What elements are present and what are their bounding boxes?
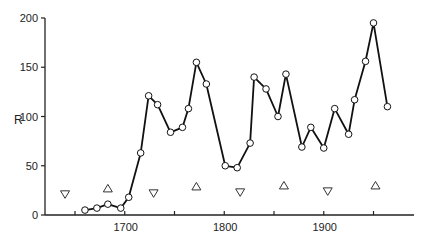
data-point-circle (308, 124, 315, 131)
series-line (85, 23, 387, 210)
triangle-down-icon (236, 189, 245, 197)
data-point-circle (234, 164, 241, 171)
triangle-up-icon (192, 182, 201, 190)
data-point-circle (331, 105, 338, 112)
data-point-circle (384, 103, 391, 110)
data-point-circle (345, 131, 352, 138)
data-point-circle (370, 20, 377, 27)
x-tick-label: 1900 (313, 221, 337, 233)
data-point-circle (125, 194, 132, 201)
data-point-circle (82, 207, 89, 214)
triangle-markers (61, 181, 380, 198)
data-point-circle (320, 145, 327, 152)
data-point-circle (167, 129, 174, 136)
triangle-up-icon (103, 184, 112, 192)
line-chart: 050100150200 170018001900 R (0, 0, 421, 241)
y-tick-label: 200 (20, 12, 38, 24)
triangle-down-icon (61, 191, 70, 199)
y-tick-label: 150 (20, 61, 38, 73)
data-point-circle (203, 81, 210, 88)
series-markers (82, 20, 391, 214)
data-point-circle (247, 140, 254, 147)
triangle-down-icon (323, 188, 332, 196)
data-point-circle (283, 71, 290, 78)
data-point-circle (351, 96, 358, 103)
data-point-circle (94, 205, 101, 212)
x-tick-label: 1700 (114, 221, 138, 233)
x-tick-label: 1800 (213, 221, 237, 233)
data-point-circle (145, 93, 152, 100)
triangle-up-icon (279, 181, 288, 189)
data-point-circle (137, 150, 144, 157)
data-point-circle (105, 201, 112, 208)
data-point-circle (117, 205, 124, 212)
y-ticks: 050100150200 (20, 12, 45, 221)
data-point-circle (222, 162, 229, 169)
x-ticks: 170018001900 (75, 211, 374, 233)
data-point-circle (299, 144, 306, 151)
data-point-circle (185, 105, 192, 112)
data-point-circle (263, 86, 270, 93)
data-point-circle (275, 113, 282, 120)
data-point-circle (251, 74, 258, 81)
data-point-circle (193, 59, 200, 66)
chart-container: 050100150200 170018001900 R (0, 0, 421, 241)
data-point-circle (154, 101, 161, 108)
y-tick-label: 50 (26, 160, 38, 172)
y-axis-label: R (14, 113, 23, 127)
data-point-circle (362, 58, 369, 65)
triangle-down-icon (149, 190, 158, 198)
data-point-circle (179, 124, 186, 131)
y-tick-label: 0 (32, 209, 38, 221)
triangle-up-icon (371, 181, 380, 189)
